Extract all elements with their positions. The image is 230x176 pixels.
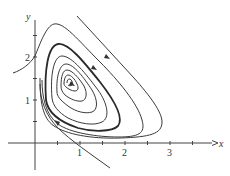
arrow-icon-upper-right [104, 54, 110, 59]
arrow-icon-middle [91, 65, 97, 70]
x-axis-label: x [218, 138, 224, 149]
x-tick-label-2: 2 [122, 147, 127, 158]
x-tick-label-1: 1 [77, 147, 82, 158]
y-axis-label: y [25, 11, 31, 22]
x-axis-arrow-icon [212, 141, 218, 146]
phase-portrait-figure: 1 2 3 1 2 x y [0, 0, 230, 176]
outer-trajectory [13, 24, 143, 137]
incoming-trajectory-upper [40, 16, 162, 138]
x-tick-label-3: 3 [167, 147, 172, 158]
spiral-ring-1 [51, 56, 106, 124]
y-tick-label-1: 1 [25, 95, 30, 106]
y-tick-label-2: 2 [25, 52, 30, 63]
